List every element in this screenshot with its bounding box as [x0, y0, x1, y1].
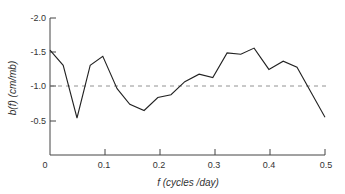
- x-tick-label: 0.4: [263, 160, 276, 170]
- x-tick-label: 0.1: [98, 160, 111, 170]
- x-tick-label: 0: [42, 160, 47, 170]
- y-tick-label: -2.0: [30, 13, 46, 23]
- x-ticks: 0 0.1 0.2 0.3 0.4 0.5: [42, 149, 332, 170]
- y-axis-title: b(f) (cm/mb): [7, 61, 18, 115]
- x-tick-label: 0.3: [208, 160, 221, 170]
- data-series-line: [50, 48, 325, 118]
- y-tick-label: -0.5: [30, 116, 46, 126]
- y-tick-label: -1.0: [30, 81, 46, 91]
- x-tick-label: 0.5: [320, 160, 333, 170]
- x-tick-label: 0.2: [153, 160, 166, 170]
- y-tick-label: -1.5: [30, 47, 46, 57]
- line-chart: -2.0 -1.5 -1.0 -0.5 0 0.1 0.2 0.3 0.4 0.…: [0, 0, 345, 194]
- y-ticks: -2.0 -1.5 -1.0 -0.5: [30, 13, 56, 126]
- x-axis-title: f (cycles /day): [157, 177, 219, 188]
